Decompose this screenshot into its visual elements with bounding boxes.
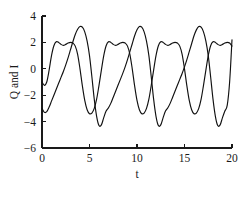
x-tick-label: 0 bbox=[39, 152, 45, 164]
y-tick-label: −2 bbox=[24, 89, 36, 101]
y-tick-labels: 420−2−4−6 bbox=[24, 10, 37, 154]
y-tick-label: 0 bbox=[30, 63, 36, 75]
y-tick-label: −6 bbox=[24, 142, 36, 154]
y-tick-label: 2 bbox=[30, 36, 36, 48]
data-curves bbox=[42, 26, 232, 126]
chart-figure: 05101520 420−2−4−6 t Q and I bbox=[0, 0, 245, 199]
data-curve-q bbox=[42, 42, 232, 114]
y-tick-label: −4 bbox=[24, 116, 36, 128]
y-axis-title: Q and I bbox=[8, 65, 20, 100]
y-tick-label: 4 bbox=[30, 10, 36, 22]
x-tick-label: 5 bbox=[87, 152, 93, 164]
x-tick-label: 15 bbox=[179, 152, 191, 164]
plot-area: 05101520 420−2−4−6 t Q and I bbox=[0, 0, 245, 199]
x-tick-label: 10 bbox=[131, 152, 143, 164]
x-tick-labels: 05101520 bbox=[39, 152, 238, 164]
x-axis-title: t bbox=[135, 168, 139, 180]
data-curve-i bbox=[42, 26, 232, 126]
x-tick-label: 20 bbox=[226, 152, 238, 164]
